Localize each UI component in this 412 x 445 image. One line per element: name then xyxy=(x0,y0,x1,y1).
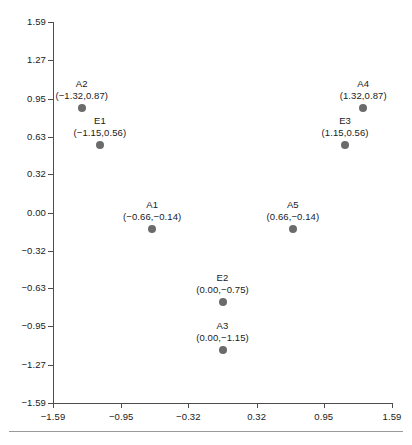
y-tick-label: 1.27 xyxy=(27,56,46,66)
data-point-marker[interactable] xyxy=(219,346,227,354)
data-point-marker[interactable] xyxy=(289,225,297,233)
x-tick-mark xyxy=(324,403,325,408)
data-point-label: E2(0.00,−0.75) xyxy=(196,272,249,295)
data-point-label: E1(−1.15,0.56) xyxy=(74,115,127,138)
data-point-name: A1 xyxy=(123,199,181,211)
y-tick-label: 1.59 xyxy=(27,17,46,27)
data-point-name: A5 xyxy=(266,199,319,211)
data-point-name: E3 xyxy=(322,115,369,127)
data-point-marker[interactable] xyxy=(78,104,86,112)
y-tick-mark xyxy=(48,326,53,327)
x-tick-label: −1.59 xyxy=(41,412,66,422)
data-point-name: E1 xyxy=(74,115,127,127)
bottom-divider-rule xyxy=(9,431,403,432)
y-tick-label: 0.32 xyxy=(27,169,46,179)
data-point-marker[interactable] xyxy=(148,225,156,233)
data-point-coordinates: (−0.66,−0.14) xyxy=(123,211,181,223)
data-point-label: A2(−1.32,0.87) xyxy=(55,78,108,101)
data-point-label: A5(0.66,−0.14) xyxy=(266,199,319,222)
data-point-marker[interactable] xyxy=(341,141,349,149)
y-tick-mark xyxy=(48,137,53,138)
data-point-marker[interactable] xyxy=(359,104,367,112)
plot-area: 1.591.270.950.630.320.00−0.32−0.63−0.95−… xyxy=(53,22,392,403)
data-point-name: A2 xyxy=(55,78,108,90)
y-tick-label: 0.63 xyxy=(27,132,46,142)
y-tick-mark xyxy=(48,99,53,100)
data-point-coordinates: (0.66,−0.14) xyxy=(266,211,319,223)
data-point-marker[interactable] xyxy=(219,298,227,306)
data-point-coordinates: (0.00,−1.15) xyxy=(196,332,249,344)
y-tick-label: 0.95 xyxy=(27,94,46,104)
data-point-coordinates: (0.00,−0.75) xyxy=(196,284,249,296)
y-tick-mark xyxy=(48,22,53,23)
data-point-coordinates: (−1.15,0.56) xyxy=(74,127,127,139)
data-point-name: A3 xyxy=(196,320,249,332)
x-tick-label: −0.95 xyxy=(109,412,134,422)
data-point-coordinates: (−1.32,0.87) xyxy=(55,90,108,102)
x-tick-label: 0.32 xyxy=(247,412,266,422)
y-tick-mark xyxy=(48,213,53,214)
x-tick-mark xyxy=(53,403,54,408)
x-tick-mark xyxy=(188,403,189,408)
x-tick-mark xyxy=(392,403,393,408)
y-tick-label: −0.32 xyxy=(21,246,46,256)
x-tick-label: 0.95 xyxy=(314,412,333,422)
data-point-label: A3(0.00,−1.15) xyxy=(196,320,249,343)
y-tick-label: −1.59 xyxy=(21,398,46,408)
y-tick-label: −0.63 xyxy=(21,283,46,293)
y-tick-mark xyxy=(48,251,53,252)
y-tick-mark xyxy=(48,60,53,61)
data-point-name: E2 xyxy=(196,272,249,284)
x-tick-label: 1.59 xyxy=(383,412,402,422)
y-tick-mark xyxy=(48,288,53,289)
data-point-coordinates: (1.15,0.56) xyxy=(322,127,369,139)
y-tick-label: −1.27 xyxy=(21,360,46,370)
data-point-label: A1(−0.66,−0.14) xyxy=(123,199,181,222)
data-point-label: E3(1.15,0.56) xyxy=(322,115,369,138)
y-tick-label: −0.95 xyxy=(21,322,46,332)
x-tick-mark xyxy=(121,403,122,408)
scatter-plot-figure: 1.591.270.950.630.320.00−0.32−0.63−0.95−… xyxy=(0,0,412,445)
x-tick-mark xyxy=(257,403,258,408)
y-tick-label: 0.00 xyxy=(27,208,46,218)
data-point-coordinates: (1.32,0.87) xyxy=(340,90,387,102)
data-point-marker[interactable] xyxy=(96,141,104,149)
x-tick-label: −0.32 xyxy=(176,412,201,422)
x-axis-line xyxy=(53,403,392,404)
data-point-label: A4(1.32,0.87) xyxy=(340,78,387,101)
y-tick-mark xyxy=(48,365,53,366)
data-point-name: A4 xyxy=(340,78,387,90)
y-tick-mark xyxy=(48,174,53,175)
